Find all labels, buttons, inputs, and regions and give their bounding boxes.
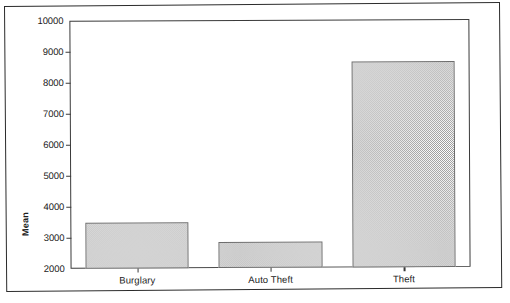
y-axis-ticks: 2000300040005000600070008000900010000 [0, 0, 509, 1]
y-axis-tick-mark [66, 52, 71, 53]
y-axis-tick-label: 8000 [22, 77, 64, 88]
y-axis-tick-label: 5000 [22, 170, 64, 181]
y-axis-tick-mark [66, 145, 71, 146]
y-axis-tick-label: 7000 [22, 108, 64, 119]
y-axis-tick-label: 10000 [21, 15, 63, 26]
y-axis-tick-label: 2000 [23, 263, 65, 274]
bar-burglary [85, 222, 189, 269]
x-axis-ticks: BurglaryAuto TheftTheft [0, 0, 509, 1]
x-axis-tick-mark [271, 268, 272, 272]
bar-series [0, 0, 509, 1]
x-axis-tick-mark [137, 268, 138, 272]
x-axis-category-label: Auto Theft [204, 274, 337, 286]
x-axis-category-label: Theft [337, 273, 470, 285]
bar-theft [351, 61, 455, 267]
chart-page: Mean 20003000400050006000700080009000100… [0, 0, 510, 303]
y-axis-tick-label: 4000 [22, 201, 64, 212]
y-axis-tick-mark [66, 114, 71, 115]
x-axis-tick-mark [404, 267, 405, 271]
y-axis-tick-label: 3000 [22, 232, 64, 243]
bar-auto-theft [219, 241, 322, 268]
y-axis-tick-mark [66, 238, 71, 239]
y-axis-tick-label: 6000 [22, 139, 64, 150]
x-axis-category-label: Burglary [71, 274, 204, 286]
y-axis-tick-mark [66, 207, 71, 208]
y-axis-tick-mark [66, 176, 71, 177]
y-axis-tick-label: 9000 [21, 46, 63, 57]
y-axis-tick-mark [66, 83, 71, 84]
bar-chart: Mean 20003000400050006000700080009000100… [0, 0, 510, 303]
